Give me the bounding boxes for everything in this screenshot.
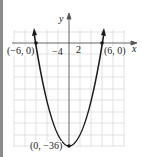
left-intercept-label: (−6, 0): [7, 46, 34, 56]
x-axis-label: x: [132, 44, 136, 54]
vertex-label: (0, −36): [30, 141, 62, 151]
tick-label-x: 2: [76, 45, 81, 55]
parabola-graph: [0, 0, 142, 157]
vertex-point: [67, 144, 71, 148]
left-intercept-point: [34, 41, 38, 45]
y-axis-label: y: [59, 14, 63, 24]
tick-label-y: −4: [52, 47, 63, 57]
axes: [12, 13, 137, 147]
right-intercept-label: (6, 0): [104, 46, 126, 56]
